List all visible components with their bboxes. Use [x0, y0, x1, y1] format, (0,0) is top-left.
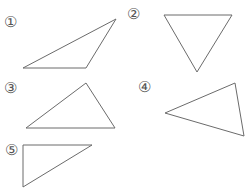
triangle-2	[164, 15, 232, 72]
figure-label-4: ④	[138, 80, 151, 95]
triangle-4	[165, 83, 244, 136]
figure-label-3: ③	[4, 81, 17, 96]
figure-label-1: ①	[4, 15, 17, 30]
figure-label-5: ⑤	[5, 143, 18, 158]
triangle-5	[23, 145, 92, 187]
triangle-3	[26, 83, 115, 128]
triangle-1	[23, 19, 116, 68]
triangles-canvas	[0, 0, 249, 188]
figure-label-2: ②	[127, 7, 140, 22]
